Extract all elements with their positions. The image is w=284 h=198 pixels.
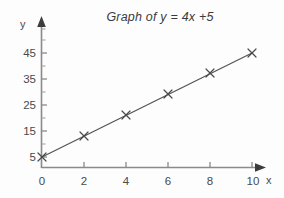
x-tick-label-0: 0 bbox=[39, 175, 45, 187]
y-tick-label-5: 5 bbox=[14, 151, 36, 163]
data-point-marker bbox=[164, 90, 172, 98]
x-tick-label-10: 10 bbox=[247, 175, 260, 187]
y-tick-label-15: 15 bbox=[14, 125, 36, 137]
y-axis-title: y bbox=[20, 18, 26, 30]
data-line-series-0 bbox=[42, 53, 252, 157]
x-axis-arrowhead bbox=[255, 163, 266, 172]
y-tick-label-35: 35 bbox=[14, 73, 36, 85]
y-tick-label-25: 25 bbox=[14, 99, 36, 111]
plot-area bbox=[0, 0, 284, 198]
x-tick-label-2: 2 bbox=[81, 175, 87, 187]
chart-figure: Graph of y = 4x +5 bbox=[0, 0, 284, 198]
data-point-marker bbox=[80, 132, 88, 140]
data-point-marker bbox=[122, 111, 130, 119]
y-major-ticks bbox=[42, 53, 48, 157]
x-major-ticks bbox=[84, 162, 252, 168]
x-tick-label-4: 4 bbox=[123, 175, 129, 187]
x-tick-label-6: 6 bbox=[165, 175, 171, 187]
x-tick-label-8: 8 bbox=[207, 175, 213, 187]
y-axis-arrowhead bbox=[37, 16, 46, 27]
y-tick-label-45: 45 bbox=[14, 47, 36, 59]
x-axis-title: x bbox=[266, 174, 272, 186]
data-point-marker bbox=[248, 49, 256, 57]
